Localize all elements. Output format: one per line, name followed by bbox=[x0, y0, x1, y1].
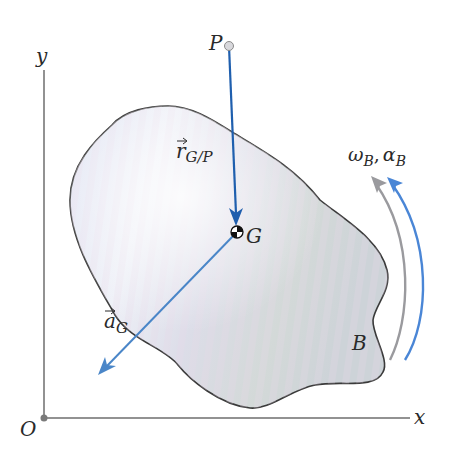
body-label: B bbox=[351, 331, 367, 355]
origin-point bbox=[41, 415, 48, 422]
alpha-arrowhead-icon bbox=[387, 177, 403, 193]
x-axis-label: x bbox=[414, 405, 425, 429]
kinematics-diagram: y x O B rG/P aG P bbox=[0, 0, 456, 462]
alpha-arc bbox=[392, 184, 423, 360]
rotation-label: ωB,αB bbox=[348, 143, 406, 169]
point-p-label: P bbox=[208, 31, 223, 55]
center-of-mass-icon bbox=[231, 226, 243, 238]
rigid-body: B bbox=[70, 106, 388, 408]
origin-label: O bbox=[20, 417, 36, 441]
point-p-marker-icon bbox=[225, 42, 234, 51]
y-axis-label: y bbox=[35, 44, 48, 68]
point-g-label: G bbox=[246, 224, 262, 248]
